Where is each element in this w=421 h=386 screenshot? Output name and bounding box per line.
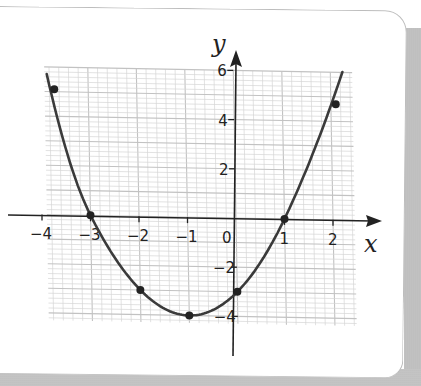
- data-point: [185, 312, 193, 320]
- x-tick-label: 0: [222, 229, 232, 247]
- grid-line-horizontal: [47, 244, 355, 250]
- grid-line-vertical: [321, 72, 326, 325]
- grid-line-horizontal: [46, 155, 354, 161]
- grid-line-vertical: [107, 68, 112, 321]
- grid-line-horizontal: [47, 249, 355, 255]
- grid-line-horizontal: [44, 67, 352, 73]
- grid-line-vertical: [330, 72, 335, 325]
- data-point: [136, 286, 144, 294]
- x-tick-label: −1: [176, 228, 198, 246]
- grid-line-horizontal: [45, 126, 353, 132]
- grid-line-vertical: [88, 68, 93, 321]
- data-point: [233, 288, 241, 296]
- grid-line-horizontal: [48, 274, 356, 280]
- grid-line-horizontal: [48, 293, 356, 299]
- y-tick-label: −4: [214, 308, 236, 326]
- data-point: [332, 100, 340, 108]
- grid-line-horizontal: [45, 101, 353, 107]
- x-axis-arrow-icon: [366, 215, 382, 227]
- grid: [44, 67, 357, 326]
- grid-line-vertical: [195, 70, 200, 323]
- grid-line-horizontal: [44, 82, 352, 88]
- y-tick-label: −2: [213, 259, 235, 277]
- grid-line-vertical: [98, 68, 103, 321]
- grid-line-horizontal: [46, 151, 354, 157]
- grid-line-horizontal: [45, 136, 353, 142]
- grid-line-horizontal: [47, 205, 355, 211]
- grid-line-vertical: [117, 68, 122, 321]
- grid-line-horizontal: [48, 303, 356, 309]
- x-axis: [8, 215, 372, 221]
- grid-line-horizontal: [44, 72, 352, 78]
- grid-line-vertical: [253, 71, 258, 324]
- grid-line-horizontal: [48, 278, 356, 284]
- parabola-graph: x y −4−3−2−1012−4−2246: [0, 0, 421, 386]
- grid-line-horizontal: [45, 91, 353, 97]
- grid-line-horizontal: [45, 106, 353, 112]
- grid-line-vertical: [165, 69, 170, 322]
- x-tick-label: 2: [328, 231, 338, 249]
- x-tick-label: 1: [280, 230, 290, 248]
- grid-line-horizontal: [48, 298, 356, 304]
- grid-line-horizontal: [45, 121, 353, 127]
- grid-line-horizontal: [46, 175, 354, 181]
- grid-line-vertical: [350, 73, 355, 326]
- grid-line-vertical: [301, 72, 306, 325]
- grid-line-vertical: [146, 69, 151, 322]
- grid-line-vertical: [340, 72, 345, 325]
- grid-line-vertical: [224, 70, 229, 323]
- data-point: [281, 215, 289, 223]
- grid-line-horizontal: [46, 190, 354, 196]
- grid-line-horizontal: [49, 318, 357, 324]
- grid-line-horizontal: [45, 131, 353, 137]
- grid-line-horizontal: [46, 141, 354, 147]
- grid-line-horizontal: [46, 146, 354, 152]
- grid-line-vertical: [156, 69, 161, 322]
- grid-line-horizontal: [48, 269, 356, 275]
- grid-line-horizontal: [48, 283, 356, 289]
- grid-line-horizontal: [48, 288, 356, 294]
- x-tick-label: −2: [127, 227, 149, 245]
- grid-line-horizontal: [44, 77, 352, 83]
- y-tick-label: 4: [218, 112, 228, 130]
- y-axis-label: y: [211, 30, 226, 58]
- grid-line-horizontal: [46, 185, 354, 191]
- grid-line-horizontal: [48, 259, 356, 265]
- grid-line-vertical: [262, 71, 267, 324]
- grid-line-horizontal: [45, 96, 353, 102]
- grid-line-vertical: [68, 67, 73, 320]
- grid-line-horizontal: [45, 116, 353, 122]
- grid-line-horizontal: [46, 180, 354, 186]
- grid-line-vertical: [127, 68, 132, 321]
- data-point: [87, 211, 95, 219]
- grid-line-vertical: [185, 70, 190, 323]
- data-point: [50, 85, 58, 93]
- grid-line-vertical: [175, 69, 180, 322]
- grid-line-vertical: [214, 70, 219, 323]
- y-tick-label: 6: [217, 62, 227, 80]
- grid-line-vertical: [59, 67, 64, 320]
- grid-line-vertical: [282, 71, 287, 324]
- grid-line-horizontal: [48, 264, 356, 270]
- grid-line-vertical: [204, 70, 209, 323]
- grid-line-horizontal: [46, 195, 354, 201]
- grid-line-vertical: [272, 71, 277, 324]
- y-tick-label: 2: [219, 161, 229, 179]
- x-axis-label: x: [364, 230, 378, 258]
- grid-line-vertical: [311, 72, 316, 325]
- grid-line-vertical: [136, 69, 141, 322]
- grid-line-horizontal: [45, 111, 353, 117]
- grid-line-horizontal: [46, 170, 354, 176]
- grid-line-horizontal: [45, 87, 353, 93]
- grid-line-horizontal: [48, 254, 356, 260]
- grid-line-horizontal: [47, 200, 355, 206]
- x-tick-label: −4: [30, 225, 52, 243]
